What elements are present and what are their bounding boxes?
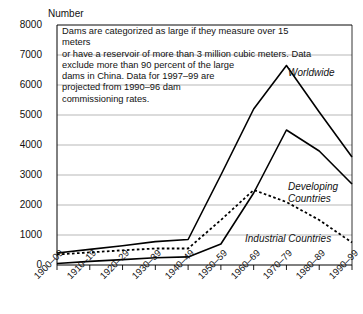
chart-container: Number 010002000300040005000600070008000…: [0, 0, 363, 314]
x-axis-tick-label: 1980–89: [294, 248, 327, 281]
annotation-line: exclude more than 90 percent of the larg…: [62, 60, 314, 71]
series-label-developing-line2: Countries: [288, 193, 338, 205]
annotation-line: dams in China. Data for 1997–99 are: [62, 71, 314, 82]
x-axis-tick-label: 1960–69: [229, 248, 262, 281]
x-axis-tick-label: 1910–19: [65, 248, 98, 281]
x-axis-tick-label: 1900–09: [32, 248, 65, 281]
annotation-line: or have a reservoir of more than 3 milli…: [62, 49, 314, 60]
series-label-worldwide: Worldwide: [288, 67, 335, 79]
series-label-industrial: Industrial Countries: [245, 233, 331, 245]
chart-annotation-note: Dams are categorized as large if they me…: [62, 26, 314, 105]
x-axis-tick-label: 1930–39: [130, 248, 163, 281]
series-label-developing-line1: Developing: [288, 181, 338, 193]
series-label-developing: Developing Countries: [288, 181, 338, 204]
x-axis-tick-label: 1970–79: [261, 248, 294, 281]
annotation-line: commissioning rates.: [62, 94, 314, 105]
annotation-line: projected from 1990–96 dam: [62, 82, 314, 93]
x-axis-tick-label: 1920–29: [98, 248, 131, 281]
annotation-line: Dams are categorized as large if they me…: [62, 26, 314, 49]
x-axis-tick-label: 1950–59: [196, 248, 229, 281]
x-axis-tick-label: 1940–49: [163, 248, 196, 281]
x-axis-tick-label: 1990–99: [327, 248, 360, 281]
